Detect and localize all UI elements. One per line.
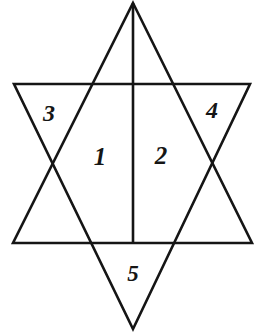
region-label-5: 5 bbox=[127, 262, 139, 285]
region-label-3: 3 bbox=[43, 101, 55, 125]
figure-canvas: 1 2 3 4 5 bbox=[0, 0, 258, 334]
region-label-1: 1 bbox=[94, 144, 107, 169]
region-label-2: 2 bbox=[155, 143, 168, 168]
region-label-4: 4 bbox=[206, 98, 218, 122]
